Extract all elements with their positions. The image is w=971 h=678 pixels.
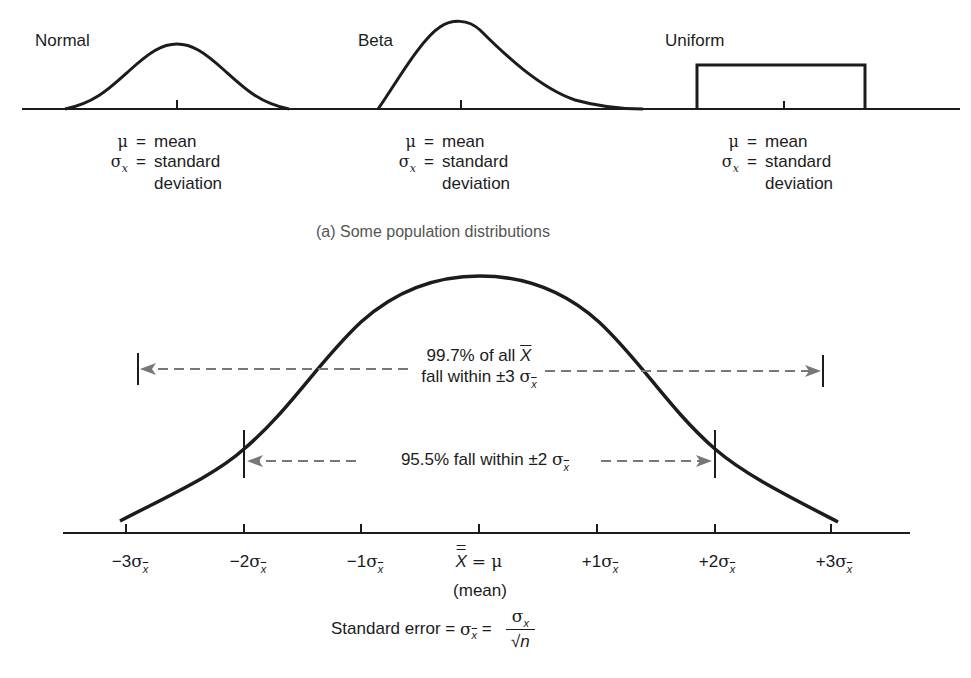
- tick-label-minus3: −3σx: [112, 551, 149, 572]
- sigma-symbol: σ: [552, 449, 564, 469]
- legend-uniform: μ=mean σx=standard deviation: [687, 132, 833, 194]
- tick-label-plus2: +2σx: [699, 551, 736, 572]
- x-bar-symbol: X: [520, 346, 531, 365]
- x-double-bar-symbol: X: [456, 552, 467, 571]
- tick-label-minus1: −1σx: [347, 551, 384, 572]
- tick-label-center: X = μ: [456, 551, 503, 572]
- caption-part-a: (a) Some population distributions: [316, 223, 550, 241]
- legend-beta: μ=mean σx=standard deviation: [364, 132, 510, 194]
- axis-ticks: [126, 524, 831, 533]
- label-normal: Normal: [35, 31, 90, 51]
- mu-symbol: μ: [687, 132, 739, 152]
- mean-note: (mean): [453, 581, 507, 601]
- legend-normal: μ=mean σx=standard deviation: [76, 132, 222, 194]
- normal-curve: [65, 44, 289, 109]
- annotation-99-7: 99.7% of all X fall within ±3 σx: [412, 345, 546, 389]
- tick-label-plus1: +1σx: [582, 551, 619, 572]
- label-uniform: Uniform: [665, 31, 725, 51]
- annotation-95-5: 95.5% fall within ±2 σx: [365, 449, 605, 472]
- sigma-symbol: σ: [399, 152, 410, 171]
- arrowhead-left-3sigma: [140, 363, 156, 375]
- sigma-symbol: σ: [520, 366, 532, 386]
- mu-symbol: μ: [76, 132, 128, 152]
- sigma-symbol: σ: [111, 152, 122, 171]
- tick-label-plus3: +3σx: [816, 551, 853, 572]
- diagram-canvas: [0, 0, 971, 678]
- sigma-symbol: σ: [722, 152, 733, 171]
- sampling-distribution-curve: [120, 276, 838, 522]
- sqrt-n: √n: [511, 630, 530, 652]
- mu-symbol: μ: [364, 132, 416, 152]
- beta-curve: [378, 21, 643, 109]
- arrowhead-left-2sigma: [247, 455, 263, 467]
- standard-error-formula: Standard error = σx = σx √n: [331, 606, 535, 652]
- tick-label-minus2: −2σx: [230, 551, 267, 572]
- fraction: σx √n: [506, 606, 535, 652]
- uniform-rectangle: [697, 65, 865, 109]
- label-beta: Beta: [358, 31, 393, 51]
